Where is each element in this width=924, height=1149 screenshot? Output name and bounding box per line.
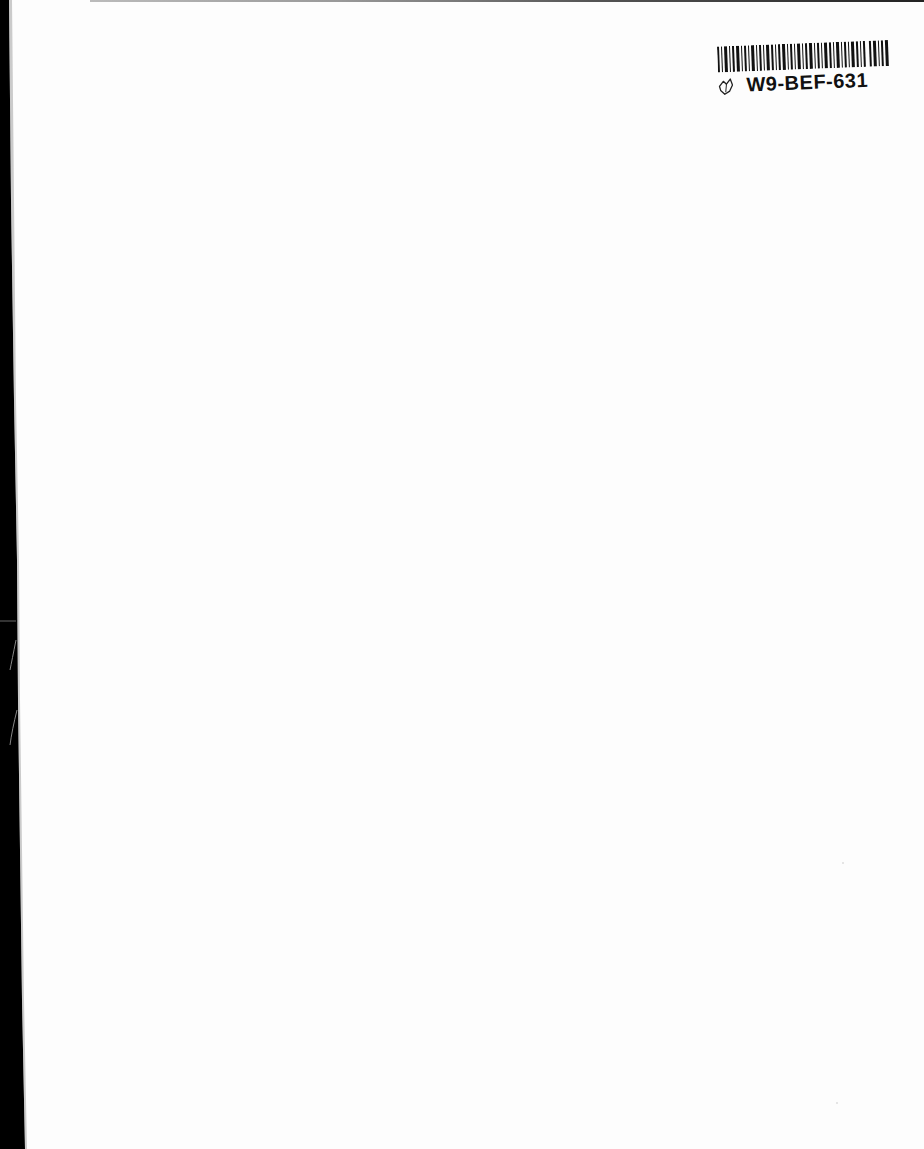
scan-speck [836,1102,838,1104]
barcode-icon [717,40,890,73]
scanned-page: W9-BEF-631 [0,0,924,1149]
left-binding-edge [0,0,30,1149]
heart-icon [716,76,739,99]
page-top-edge [90,0,924,2]
barcode-number: W9-BEF-631 [746,69,868,97]
library-barcode-label: W9-BEF-631 [705,40,897,107]
scan-speck [842,862,844,864]
